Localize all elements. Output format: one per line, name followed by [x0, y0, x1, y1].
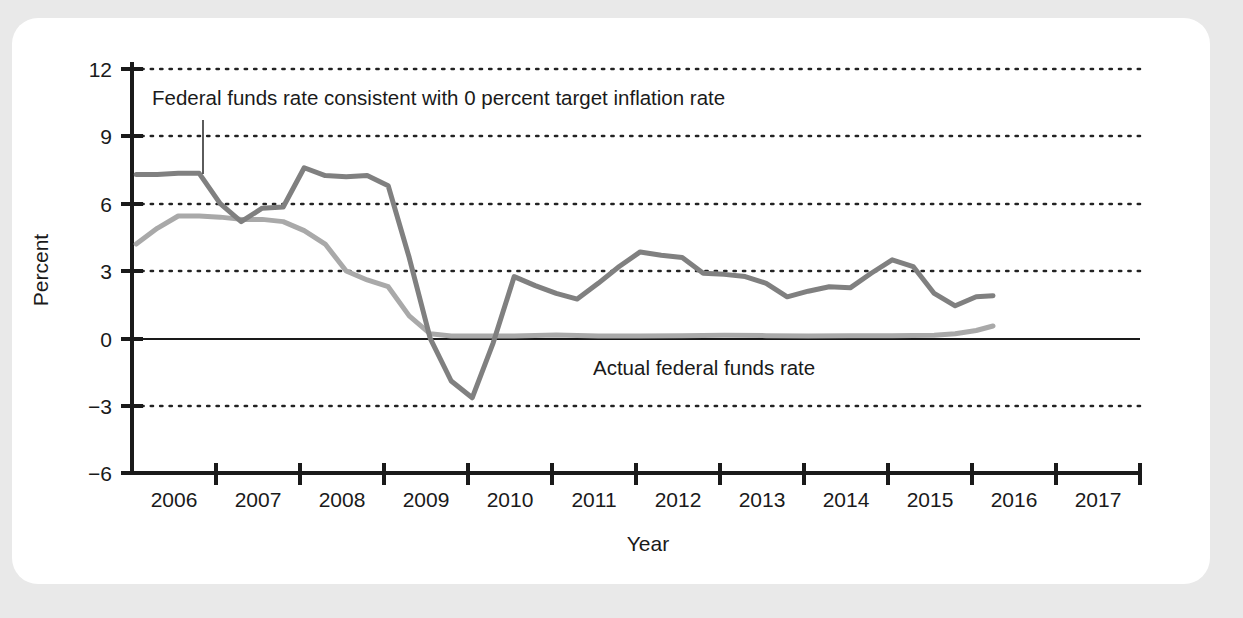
y-tick-label-12: 12: [89, 58, 112, 81]
y-tick-label-0: 0: [100, 328, 112, 351]
page-background: 12 9 6 3 0 −3 −6 2006 2007 2008 2009 201…: [0, 0, 1243, 618]
consistent-rate-annotation-label: Federal funds rate consistent with 0 per…: [152, 86, 725, 109]
y-tick-label-minus3: −3: [88, 395, 112, 418]
y-tick-label-3: 3: [100, 260, 112, 283]
series-line-consistent-rate: [136, 168, 993, 398]
x-tick-label-2008: 2008: [319, 488, 366, 511]
x-tick-label-2011: 2011: [571, 488, 616, 511]
x-tick-label-2006: 2006: [151, 488, 198, 511]
x-axis-tick-labels: 2006 2007 2008 2009 2010 2011 2012 2013 …: [151, 488, 1122, 511]
x-tick-label-2015: 2015: [907, 488, 954, 511]
x-axis-title: Year: [627, 532, 669, 555]
y-axis-tick-labels: 12 9 6 3 0 −3 −6: [88, 58, 112, 485]
y-axis-title: Percent: [29, 234, 52, 307]
x-tick-label-2016: 2016: [991, 488, 1038, 511]
y-tick-label-9: 9: [100, 125, 112, 148]
x-tick-label-2014: 2014: [823, 488, 870, 511]
actual-rate-annotation-label: Actual federal funds rate: [593, 356, 815, 379]
x-tick-label-2009: 2009: [403, 488, 450, 511]
x-tick-label-2013: 2013: [739, 488, 786, 511]
x-tick-label-2012: 2012: [655, 488, 702, 511]
x-tick-label-2010: 2010: [487, 488, 534, 511]
y-tick-label-minus6: −6: [88, 462, 112, 485]
x-tick-label-2007: 2007: [235, 488, 282, 511]
x-tick-label-2017: 2017: [1075, 488, 1122, 511]
line-chart: 12 9 6 3 0 −3 −6 2006 2007 2008 2009 201…: [0, 0, 1243, 618]
y-tick-label-6: 6: [100, 193, 112, 216]
